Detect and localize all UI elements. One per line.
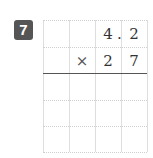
decimal-point: . bbox=[117, 25, 122, 43]
times-sign: × bbox=[69, 47, 95, 73]
grid-line bbox=[43, 100, 147, 101]
grid-line bbox=[43, 126, 147, 127]
multiplier-digit: 7 bbox=[121, 47, 147, 73]
multiplicand-digit: 2 bbox=[121, 20, 147, 46]
multiplier-digit bbox=[43, 47, 69, 73]
multiplicand-digit bbox=[69, 20, 95, 46]
grid-line bbox=[43, 152, 147, 153]
result-line bbox=[43, 73, 147, 74]
multiplicand-digit bbox=[43, 20, 69, 46]
problem-number-badge: 7 bbox=[14, 20, 33, 40]
multiplication-grid: 4 2 . × 2 7 bbox=[43, 20, 147, 152]
multiplier-digit: 2 bbox=[95, 47, 121, 73]
grid-line bbox=[147, 20, 148, 152]
